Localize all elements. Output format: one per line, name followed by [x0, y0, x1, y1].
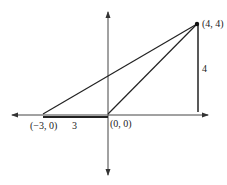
point-a-label: (−3, 0)	[30, 121, 57, 131]
height-label: 4	[202, 64, 207, 74]
base-length-label: 3	[72, 121, 77, 131]
side-a-to-p	[43, 24, 197, 114]
point-p-label: (4, 4)	[202, 19, 224, 29]
point-p-marker	[195, 22, 199, 26]
side-o-to-p	[108, 24, 197, 114]
coordinate-diagram	[0, 0, 227, 185]
point-o-label: (0, 0)	[110, 119, 132, 129]
